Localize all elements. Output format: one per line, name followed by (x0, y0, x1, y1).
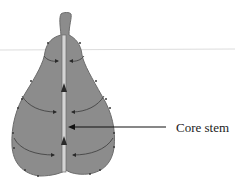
core-stem (62, 35, 66, 172)
pear-illustration (0, 0, 235, 189)
core-stem-label: Core stem (176, 120, 229, 136)
pear-diagram: Core stem (0, 0, 235, 189)
guide-line (0, 49, 235, 50)
